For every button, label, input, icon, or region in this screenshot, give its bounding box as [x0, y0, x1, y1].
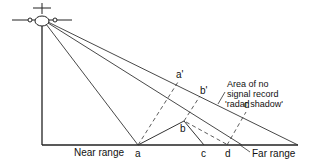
- shadow-label-line2: signal record: [227, 89, 279, 99]
- shadow-pointer: [218, 92, 225, 104]
- point-c-label: c: [201, 149, 206, 159]
- wavefront-a: [138, 82, 178, 145]
- shadow-dash: [186, 122, 228, 145]
- point-a-prime-label: a': [176, 70, 183, 80]
- aircraft-icon: [12, 3, 72, 26]
- point-a-label: a: [135, 149, 141, 159]
- terrain-feature: [138, 121, 204, 145]
- point-b-label: b: [180, 124, 186, 134]
- wavefront-d: [227, 112, 246, 145]
- shadow-label-line1: Area of no: [227, 79, 269, 89]
- near-range-label: Near range: [74, 148, 124, 158]
- ray-near: [46, 24, 138, 145]
- point-d-label: d: [225, 149, 231, 159]
- shadow-label-line3: 'radar shadow': [225, 99, 283, 109]
- far-range-label: Far range: [252, 149, 295, 159]
- point-b-prime-label: b': [200, 86, 207, 96]
- ray-shadow-tangent: [48, 23, 242, 145]
- far-range-pointer: [240, 145, 250, 152]
